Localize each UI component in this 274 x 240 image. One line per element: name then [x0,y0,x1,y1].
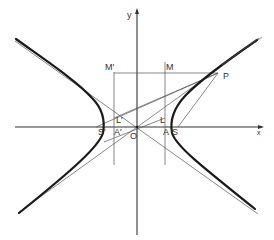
foot-right-label: M [166,62,174,72]
vertex-right-label: A [163,127,169,137]
directrix-point-right-label: L [160,115,165,125]
origin-point [136,126,139,129]
hyperbola-diagram: y x O A A' S S' L L' M M' P [0,0,274,240]
origin-label: O [130,131,137,141]
focal-radius-PS [178,73,218,127]
directrix-point-left-label: L' [116,115,123,125]
focus-right-label: S [172,127,178,137]
x-axis-label: x [257,129,261,136]
point-P-label: P [223,71,229,81]
foot-left-label: M' [105,62,114,72]
y-axis-label: y [127,10,132,20]
y-axis-arrow-icon [135,8,139,14]
hyperbola-right-branch-outer [222,38,259,65]
vertex-left-label: A' [114,127,122,137]
hyperbola-left-branch [16,39,104,213]
hyperbola-right-branch [171,40,257,209]
focus-left-label: S' [98,127,106,137]
